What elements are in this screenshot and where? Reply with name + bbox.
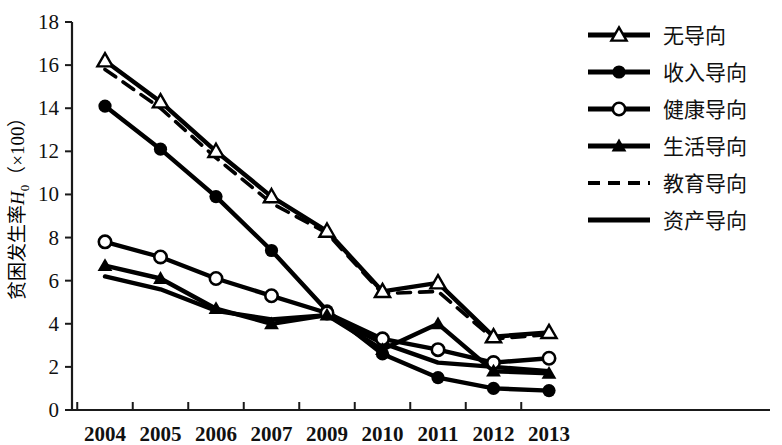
legend-item-无导向[interactable]: 无导向 — [588, 24, 726, 48]
marker-收入导向 — [431, 371, 444, 384]
series-markers-无导向 — [97, 53, 556, 342]
marker-收入导向 — [265, 244, 278, 257]
x-axis-tick-label-2010: 2010 — [362, 422, 404, 445]
y-axis-tick-label: 18 — [38, 10, 59, 34]
x-axis-tick-label-2006: 2006 — [195, 422, 237, 445]
marker-健康导向 — [543, 352, 555, 364]
legend-label-无导向: 无导向 — [663, 24, 726, 48]
legend-label-资产导向: 资产导向 — [663, 209, 747, 233]
x-axis-tick-label-2013: 2013 — [528, 422, 570, 445]
svg-text:贫困发生率H0（×100）: 贫困发生率H0（×100） — [7, 108, 32, 300]
marker-健康导向 — [210, 272, 222, 284]
marker-健康导向 — [432, 343, 444, 355]
marker-收入导向 — [98, 99, 111, 112]
y-axis-label-prefix: 贫困发生率 — [7, 205, 28, 300]
marker-健康导向 — [154, 251, 166, 263]
series-layer — [97, 53, 556, 397]
y-axis-tick-label: 12 — [38, 139, 59, 163]
x-axis-tick-label-2005: 2005 — [140, 422, 182, 445]
marker-收入导向 — [542, 384, 555, 397]
x-axis: 200420052006200720092010201120122013 — [72, 402, 770, 445]
chart-legend: 无导向收入导向健康导向生活导向教育导向资产导向 — [588, 24, 747, 233]
poverty-incidence-line-chart: 贫困发生率H0（×100） 181614121086420 2004200520… — [0, 0, 782, 445]
x-axis-tick-label-2011: 2011 — [418, 422, 459, 445]
marker-收入导向 — [209, 190, 222, 203]
legend-item-教育导向[interactable]: 教育导向 — [588, 172, 747, 196]
y-axis-tick-label: 10 — [38, 182, 59, 206]
marker-无导向 — [97, 53, 112, 66]
marker-健康导向 — [99, 236, 111, 248]
x-axis-tick-label-2012: 2012 — [473, 422, 515, 445]
legend-item-生活导向[interactable]: 生活导向 — [588, 135, 747, 159]
chart-canvas: 贫困发生率H0（×100） 181614121086420 2004200520… — [0, 0, 782, 445]
y-axis-tick-label: 4 — [49, 312, 60, 336]
legend-label-教育导向: 教育导向 — [663, 172, 747, 196]
marker-收入导向 — [487, 382, 500, 395]
marker-生活导向 — [431, 316, 446, 329]
y-axis-tick-label: 16 — [38, 53, 59, 77]
y-axis-tick-label: 6 — [49, 269, 60, 293]
legend-label-收入导向: 收入导向 — [663, 61, 747, 85]
y-axis: 181614121086420 — [38, 10, 72, 422]
marker-legend-健康导向 — [613, 103, 625, 115]
y-axis-label-symbol: H — [7, 190, 28, 206]
legend-label-健康导向: 健康导向 — [663, 98, 747, 122]
y-axis-tick-label: 8 — [49, 226, 60, 250]
x-axis-tick-label-2007: 2007 — [251, 422, 293, 445]
series-markers-收入导向 — [98, 99, 555, 397]
x-axis-tick-label-2004: 2004 — [84, 422, 127, 445]
legend-item-收入导向[interactable]: 收入导向 — [588, 61, 747, 85]
series-markers-健康导向 — [99, 236, 555, 369]
y-axis-label-suffix: （×100） — [7, 108, 28, 185]
marker-收入导向 — [154, 143, 167, 156]
y-axis-tick-label: 2 — [49, 355, 60, 379]
y-axis-tick-label: 0 — [49, 398, 60, 422]
series-line-收入导向 — [105, 106, 549, 391]
marker-健康导向 — [265, 290, 277, 302]
legend-item-资产导向[interactable]: 资产导向 — [588, 209, 747, 233]
x-axis-tick-label-2009: 2009 — [306, 422, 348, 445]
series-line-健康导向 — [105, 242, 549, 363]
legend-item-健康导向[interactable]: 健康导向 — [588, 98, 747, 122]
y-axis-label: 贫困发生率H0（×100） — [7, 108, 32, 300]
legend-label-生活导向: 生活导向 — [663, 135, 747, 159]
y-axis-tick-label: 14 — [38, 96, 60, 120]
marker-legend-收入导向 — [612, 65, 625, 78]
